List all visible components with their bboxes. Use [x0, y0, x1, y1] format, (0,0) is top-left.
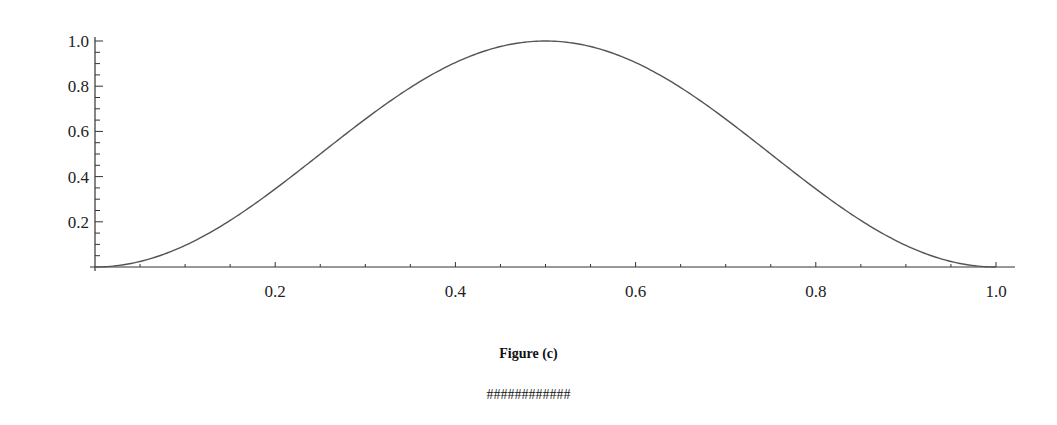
- ticks: [95, 41, 996, 267]
- y-tick-label: 0.8: [68, 77, 89, 96]
- y-tick-label: 0.4: [68, 168, 90, 187]
- y-tick-label: 1.0: [68, 32, 89, 51]
- footer-hash-text: ############: [0, 387, 1057, 403]
- y-tick-label: 0.6: [68, 122, 89, 141]
- tick-labels: 0.20.40.60.81.00.20.40.60.81.0: [68, 32, 1007, 301]
- x-tick-label: 0.2: [265, 282, 286, 301]
- axes: [90, 37, 1015, 271]
- x-tick-label: 0.6: [625, 282, 646, 301]
- x-tick-label: 0.8: [805, 282, 826, 301]
- series-curve: [95, 41, 996, 267]
- x-tick-label: 1.0: [985, 282, 1006, 301]
- figure-caption: Figure (c): [0, 346, 1057, 362]
- y-tick-label: 0.2: [68, 213, 89, 232]
- x-tick-label: 0.4: [445, 282, 467, 301]
- chart: 0.20.40.60.81.00.20.40.60.81.0: [0, 0, 1057, 330]
